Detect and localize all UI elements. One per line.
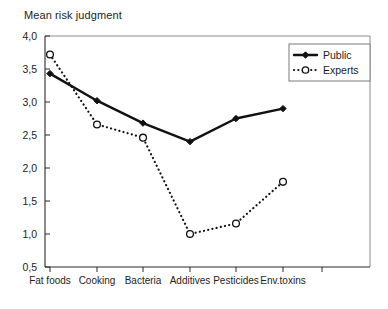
legend-label-experts: Experts [323, 64, 359, 76]
y-tick-label: 3,5 [22, 63, 37, 75]
x-tick-label: Pesticides [213, 275, 259, 286]
y-tick-label: 1,0 [22, 228, 37, 240]
legend-marker-experts [302, 67, 308, 73]
data-point-experts-1 [94, 121, 101, 128]
x-tick-label: Cooking [79, 275, 116, 286]
data-point-experts-3 [187, 231, 194, 238]
x-tick-label: Bacteria [125, 275, 162, 286]
data-point-experts-4 [233, 220, 240, 227]
data-point-experts-0 [47, 51, 54, 58]
x-tick-label: Env.toxins [260, 275, 305, 286]
y-axis-ticks: 4,03,53,02,52,01,51,00,5 [22, 30, 50, 273]
y-tick-label: 3,0 [22, 96, 37, 108]
y-tick-label: 1,5 [22, 195, 37, 207]
chart-container: Mean risk judgment 4,03,53,02,52,01,51,0… [0, 0, 388, 309]
data-point-experts-2 [140, 134, 147, 141]
data-point-public-5 [280, 105, 286, 111]
chart-legend: PublicExperts [289, 44, 370, 81]
x-tick-label: Fat foods [29, 275, 71, 286]
data-point-experts-5 [280, 178, 287, 185]
x-axis-ticks: Fat foodsCookingBacteriaAdditivesPestici… [29, 267, 322, 286]
y-tick-label: 4,0 [22, 30, 37, 42]
y-tick-label: 2,5 [22, 129, 37, 141]
y-tick-label: 0,5 [22, 261, 37, 273]
legend-label-public: Public [323, 49, 352, 61]
y-tick-label: 2,0 [22, 162, 37, 174]
line-chart-plot: 4,03,53,02,52,01,51,00,5 Fat foodsCookin… [0, 0, 388, 309]
data-series-group [47, 51, 287, 237]
x-tick-label: Additives [170, 275, 211, 286]
series-line-experts [50, 54, 283, 234]
